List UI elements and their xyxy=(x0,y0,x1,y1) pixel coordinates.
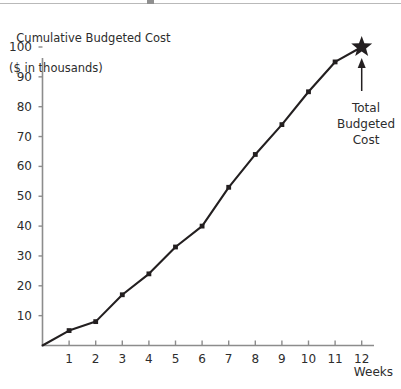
x-axis-tick-label: 1 xyxy=(57,352,81,366)
x-axis-tick-label: 3 xyxy=(110,352,134,366)
y-axis-tick-label: 80 xyxy=(2,100,32,114)
total-budgeted-cost-star-icon xyxy=(351,36,372,56)
x-axis-tick-label: 9 xyxy=(270,352,294,366)
x-axis-tick-label: 12 xyxy=(350,352,374,366)
x-axis-tick-label: 2 xyxy=(84,352,108,366)
annotation-arrow-icon xyxy=(358,58,366,91)
y-axis-tick-label: 60 xyxy=(2,159,32,173)
y-axis-tick-label: 10 xyxy=(2,309,32,323)
data-point-marker xyxy=(253,152,258,157)
x-axis-tick-label: 7 xyxy=(217,352,241,366)
x-axis-tick-label: 6 xyxy=(190,352,214,366)
series-data-point-markers xyxy=(67,60,338,333)
y-axis-tick-label: 90 xyxy=(2,70,32,84)
data-point-marker xyxy=(173,245,178,250)
x-axis-tick-label: 10 xyxy=(297,352,321,366)
data-point-marker xyxy=(200,224,205,229)
data-point-marker xyxy=(226,185,231,190)
y-axis-tick-label: 50 xyxy=(2,189,32,203)
y-axis-tick-label: 40 xyxy=(2,219,32,233)
annotation-total-budgeted-cost: Total Budgeted Cost xyxy=(333,100,399,148)
annotation-line-3: Cost xyxy=(333,132,399,148)
cost-line-series xyxy=(43,47,362,346)
y-axis-tick-label: 20 xyxy=(2,279,32,293)
data-point-marker xyxy=(333,60,338,65)
x-axis-tick-label: 11 xyxy=(323,352,347,366)
chart-plot-area xyxy=(0,0,401,389)
y-axis-tick-label: 30 xyxy=(2,249,32,263)
data-point-marker xyxy=(93,319,98,324)
data-point-marker xyxy=(120,292,125,297)
data-point-marker xyxy=(306,89,311,94)
x-axis-tick-label: 5 xyxy=(164,352,188,366)
x-axis-title: Weeks xyxy=(354,365,393,379)
data-point-marker xyxy=(67,328,72,333)
y-axis-tick-label: 70 xyxy=(2,130,32,144)
x-axis-tick-label: 8 xyxy=(243,352,267,366)
data-point-marker xyxy=(280,122,285,127)
x-axis-tick-label: 4 xyxy=(137,352,161,366)
y-axis-tick-label: 100 xyxy=(2,40,32,54)
annotation-line-1: Total xyxy=(333,100,399,116)
data-point-marker xyxy=(147,271,152,276)
annotation-line-2: Budgeted xyxy=(333,116,399,132)
